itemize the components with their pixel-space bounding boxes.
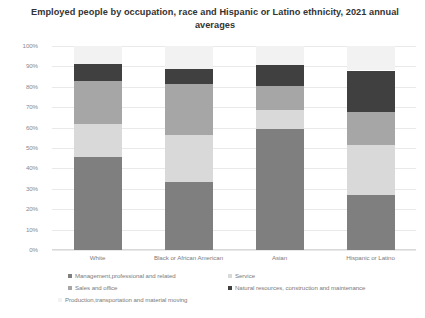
bar-segment[interactable] [165,69,213,83]
bar-group[interactable] [347,46,395,250]
bar-segment[interactable] [74,157,122,250]
bar-segment[interactable] [347,145,395,195]
y-axis-tick-label: 90% [4,62,38,69]
bar-segment[interactable] [165,46,213,69]
bar-stack [347,46,395,250]
y-axis-tick-label: 100% [4,42,38,49]
bar-segment[interactable] [165,182,213,250]
bar-segment[interactable] [256,46,304,65]
legend-item[interactable]: Production,transportation and material m… [58,296,187,303]
legend-label: Sales and office [75,284,117,291]
chart-legend: Management,professional and relatedServi… [0,268,425,314]
bar-segment[interactable] [256,86,304,110]
legend-swatch-icon [58,298,62,302]
y-axis-tick-label: 30% [4,185,38,192]
legend-item[interactable]: Natural resources, construction and main… [228,284,365,291]
bar-segment[interactable] [74,46,122,64]
legend-label: Natural resources, construction and main… [235,284,365,291]
legend-item[interactable]: Management,professional and related [68,272,176,279]
gridline [52,250,416,251]
y-axis-tick-label: 0% [4,246,38,253]
legend-item[interactable]: Service [228,272,255,279]
y-axis-tick-label: 60% [4,124,38,131]
y-axis-tick-label: 40% [4,164,38,171]
bar-segment[interactable] [347,71,395,113]
legend-swatch-icon [228,286,232,290]
y-axis-tick-label: 10% [4,226,38,233]
y-axis-tick-label: 70% [4,103,38,110]
legend-label: Service [235,272,255,279]
chart-container: Employed people by occupation, race and … [0,0,425,318]
bar-segment[interactable] [256,129,304,250]
bar-segment[interactable] [347,46,395,70]
legend-label: Management,professional and related [75,272,176,279]
bar-group[interactable] [256,46,304,250]
bar-segment[interactable] [347,195,395,250]
legend-swatch-icon [68,274,72,278]
y-axis-tick-label: 80% [4,83,38,90]
bar-group[interactable] [74,46,122,250]
bar-segment[interactable] [256,110,304,128]
legend-item[interactable]: Sales and office [68,284,117,291]
bar-stack [165,46,213,250]
bar-segment[interactable] [74,81,122,124]
legend-swatch-icon [68,286,72,290]
legend-label: Production,transportation and material m… [65,296,187,303]
bar-group[interactable] [165,46,213,250]
y-axis-tick-label: 20% [4,205,38,212]
bar-segment[interactable] [165,135,213,182]
bar-stack [256,46,304,250]
bar-stack [74,46,122,250]
bar-segment[interactable] [347,112,395,145]
bar-segment[interactable] [74,124,122,158]
y-axis-tick-label: 50% [4,144,38,151]
bar-segment[interactable] [256,65,304,85]
legend-swatch-icon [228,274,232,278]
x-axis-category-label: Hispanic or Latino [291,254,425,261]
bar-segment[interactable] [74,64,122,80]
plot-area: 100%90%80%70%60%50%40%30%20%10%0% WhiteB… [52,46,416,250]
chart-title: Employed people by occupation, race and … [30,6,400,32]
bar-segment[interactable] [165,84,213,135]
